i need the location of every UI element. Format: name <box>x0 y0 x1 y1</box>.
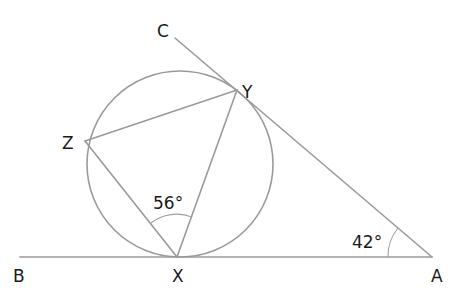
angle-label-x: 56° <box>153 193 183 213</box>
tangent-line-ca <box>175 38 432 257</box>
point-label-b: B <box>13 266 25 286</box>
point-label-a: A <box>431 266 443 286</box>
angle-arc-a <box>388 228 398 257</box>
point-label-c: C <box>157 21 169 41</box>
point-label-y: Y <box>241 82 253 102</box>
geometry-diagram: C Y Z B X A 56° 42° <box>0 0 460 296</box>
angle-arc-x <box>151 214 192 223</box>
point-label-x: X <box>172 266 184 286</box>
chord-xy <box>177 90 237 257</box>
angle-label-a: 42° <box>352 232 382 252</box>
point-label-z: Z <box>62 133 74 153</box>
chord-yz <box>85 90 237 141</box>
